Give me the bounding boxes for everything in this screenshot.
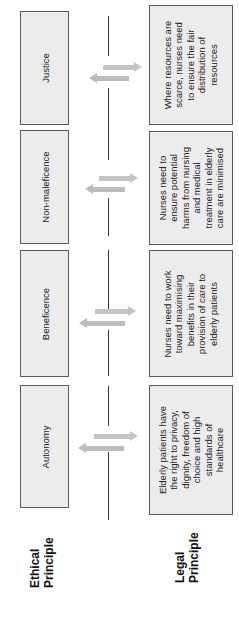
ethical-box-autonomy: Autonomy bbox=[20, 385, 69, 508]
legal-text-non-maleficence: Nurses need to ensure potential harms fr… bbox=[157, 133, 225, 243]
arrow-right-icon bbox=[95, 309, 137, 314]
legal-line: harms from nursing bbox=[180, 133, 191, 243]
legal-line: scarce, nurses need bbox=[174, 9, 185, 121]
legal-box-beneficence: Nurses need to work toward maximising be… bbox=[149, 250, 233, 377]
ethical-label-justice: Justice bbox=[39, 13, 50, 123]
legal-line: provision of care to bbox=[197, 255, 208, 373]
legal-line: resources bbox=[208, 9, 219, 121]
ethical-principle-header: Ethical Principle bbox=[29, 537, 56, 588]
legal-box-non-maleficence: Nurses need to ensure potential harms fr… bbox=[149, 131, 233, 245]
arrow-right-icon bbox=[99, 176, 139, 181]
legal-line: toward maximising bbox=[174, 255, 185, 373]
ethical-label-non-maleficence: Non-maleficence bbox=[39, 132, 50, 242]
ethical-box-non-maleficence: Non-maleficence bbox=[20, 130, 69, 244]
legal-line: to ensure the fair bbox=[185, 9, 196, 121]
legal-principle-header: Legal Principle bbox=[174, 532, 201, 583]
legal-line: benefits in their bbox=[185, 255, 196, 373]
timeline-segment bbox=[108, 330, 109, 376]
legal-line: dignity, freedom of bbox=[180, 390, 191, 510]
ethical-box-justice: Justice bbox=[20, 11, 69, 125]
timeline-segment bbox=[108, 386, 109, 426]
ethical-box-beneficence: Beneficence bbox=[20, 250, 69, 377]
legal-text-autonomy: Elderly patients have the right to priva… bbox=[157, 390, 225, 510]
legal-line: distribution of bbox=[197, 9, 208, 121]
arrow-left-icon bbox=[85, 187, 125, 192]
header-line: Ethical bbox=[29, 537, 43, 588]
arrow-left-icon bbox=[79, 321, 125, 326]
legal-line: elderly patients bbox=[208, 255, 219, 373]
legal-line: ensure potential bbox=[168, 133, 179, 243]
legal-line: the right to privacy, bbox=[168, 390, 179, 510]
header-line: Principle bbox=[43, 537, 57, 588]
timeline-segment bbox=[108, 198, 109, 236]
header-line: Principle bbox=[188, 532, 202, 583]
arrow-left-icon bbox=[89, 76, 129, 81]
legal-line: care are minimised bbox=[214, 133, 225, 243]
legal-box-justice: Where resources are scarce, nurses need … bbox=[149, 5, 233, 125]
timeline-segment bbox=[108, 16, 109, 56]
ethical-label-beneficence: Beneficence bbox=[39, 259, 50, 369]
timeline-segment bbox=[108, 250, 109, 310]
legal-line: and medical bbox=[191, 133, 202, 243]
legal-line: Nurses need to work bbox=[162, 255, 173, 373]
legal-text-justice: Where resources are scarce, nurses need … bbox=[162, 9, 219, 121]
legal-text-beneficence: Nurses need to work toward maximising be… bbox=[162, 255, 219, 373]
legal-line: treatment in elderly bbox=[202, 133, 213, 243]
legal-line: standards of bbox=[202, 390, 213, 510]
legal-line: healthcare bbox=[214, 390, 225, 510]
arrow-left-icon bbox=[78, 446, 124, 451]
timeline-segment bbox=[108, 88, 109, 160]
legal-line: Elderly patients have bbox=[157, 390, 168, 510]
legal-line: Nurses need to bbox=[157, 133, 168, 243]
ethical-label-autonomy: Autonomy bbox=[39, 392, 50, 502]
arrow-right-icon bbox=[94, 434, 139, 439]
timeline-segment bbox=[108, 452, 109, 520]
legal-box-autonomy: Elderly patients have the right to priva… bbox=[149, 385, 233, 515]
legal-line: Where resources are bbox=[162, 9, 173, 121]
arrow-right-icon bbox=[103, 65, 143, 70]
legal-line: choice and high bbox=[191, 390, 202, 510]
header-line: Legal bbox=[174, 532, 188, 583]
